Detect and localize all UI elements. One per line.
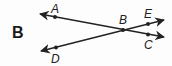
point-e-dot	[146, 22, 150, 26]
point-label-b: B	[119, 14, 127, 26]
point-b-dot	[121, 28, 125, 32]
point-label-e: E	[144, 8, 152, 20]
point-d-dot	[54, 46, 58, 50]
geometry-diagram: B A B C D E	[0, 0, 172, 66]
point-c-dot	[146, 33, 150, 37]
point-label-a: A	[51, 3, 59, 15]
point-label-d: D	[51, 53, 60, 65]
point-label-c: C	[144, 39, 153, 51]
